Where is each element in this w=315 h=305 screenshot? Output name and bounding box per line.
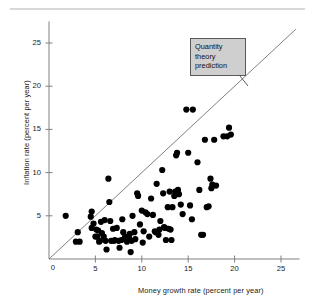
scatter-points-group bbox=[63, 106, 234, 255]
data-point bbox=[168, 237, 174, 243]
data-point bbox=[189, 216, 195, 222]
data-point bbox=[144, 211, 150, 217]
data-point bbox=[141, 228, 147, 234]
y-axis-tick-label: 10 bbox=[19, 168, 41, 177]
quantity-theory-annotation-box: Quantity theory prediction bbox=[190, 38, 246, 76]
data-point bbox=[187, 202, 193, 208]
data-point bbox=[119, 216, 125, 222]
data-point bbox=[131, 229, 137, 235]
y-axis-tick-label: 25 bbox=[19, 38, 41, 47]
data-point bbox=[183, 106, 189, 112]
x-axis-tick-label: 10 bbox=[131, 264, 153, 273]
data-point bbox=[190, 106, 196, 112]
y-axis-tick-label: 15 bbox=[19, 124, 41, 133]
data-point bbox=[202, 137, 208, 143]
data-point bbox=[194, 159, 200, 165]
data-point bbox=[89, 208, 95, 214]
data-point bbox=[180, 211, 186, 217]
x-axis-tick-label: 20 bbox=[224, 264, 246, 273]
data-point bbox=[200, 232, 206, 238]
data-point bbox=[211, 137, 217, 143]
data-point bbox=[75, 229, 81, 235]
data-point bbox=[77, 239, 83, 245]
data-point bbox=[154, 181, 160, 187]
quantity-theory-reference-line bbox=[49, 29, 296, 259]
data-point bbox=[107, 218, 113, 224]
data-point bbox=[114, 225, 120, 231]
data-point bbox=[88, 214, 94, 220]
data-point bbox=[228, 131, 234, 137]
data-point bbox=[167, 227, 173, 233]
data-point bbox=[140, 239, 146, 245]
data-point bbox=[160, 190, 166, 196]
data-point bbox=[196, 187, 202, 193]
data-point bbox=[163, 237, 169, 243]
data-point bbox=[106, 199, 112, 205]
data-point bbox=[157, 218, 163, 224]
data-point bbox=[226, 125, 232, 131]
data-point bbox=[159, 167, 165, 173]
plot-canvas bbox=[0, 0, 315, 305]
x-axis-tick-label: 15 bbox=[177, 264, 199, 273]
data-point bbox=[213, 182, 219, 188]
data-point bbox=[148, 195, 154, 201]
data-point bbox=[174, 150, 180, 156]
x-axis-tick-label: 25 bbox=[270, 264, 292, 273]
data-point bbox=[155, 232, 161, 238]
data-point bbox=[132, 236, 138, 242]
data-point bbox=[103, 238, 109, 244]
quantity-theory-annotation-label: Quantity theory prediction bbox=[195, 42, 241, 71]
data-point bbox=[137, 221, 143, 227]
x-axis-tick-label: 5 bbox=[84, 264, 106, 273]
data-point bbox=[150, 212, 156, 218]
y-axis-tick-label: 5 bbox=[19, 211, 41, 220]
y-axis-tick-label: 0 bbox=[33, 263, 55, 272]
data-point bbox=[128, 249, 134, 255]
data-point bbox=[178, 201, 184, 207]
data-point bbox=[90, 220, 96, 226]
data-point bbox=[135, 193, 141, 199]
data-point bbox=[176, 191, 182, 197]
data-point bbox=[206, 203, 212, 209]
data-point bbox=[105, 176, 111, 182]
data-point bbox=[103, 246, 109, 252]
data-point bbox=[102, 217, 108, 223]
data-point bbox=[185, 150, 191, 156]
data-point bbox=[129, 213, 135, 219]
data-point bbox=[146, 233, 152, 239]
data-point bbox=[63, 213, 69, 219]
y-axis-tick-label: 20 bbox=[19, 81, 41, 90]
data-point bbox=[169, 204, 175, 210]
scatter-chart-figure: Inflation rate (percent per year) Money … bbox=[0, 0, 315, 305]
data-point bbox=[116, 245, 122, 251]
data-point bbox=[207, 176, 213, 182]
x-axis-title: Money growth rate (percent per year) bbox=[138, 286, 264, 295]
data-point bbox=[167, 189, 173, 195]
axes-group bbox=[46, 21, 300, 262]
